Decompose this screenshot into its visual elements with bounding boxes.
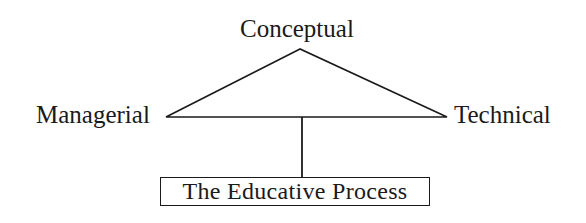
triangle: [166, 49, 447, 117]
educative-process-label: The Educative Process: [183, 178, 408, 205]
node-managerial: Managerial: [36, 102, 150, 127]
node-educative-process: The Educative Process: [160, 177, 430, 206]
node-conceptual: Conceptual: [240, 16, 354, 41]
node-technical: Technical: [454, 102, 551, 127]
